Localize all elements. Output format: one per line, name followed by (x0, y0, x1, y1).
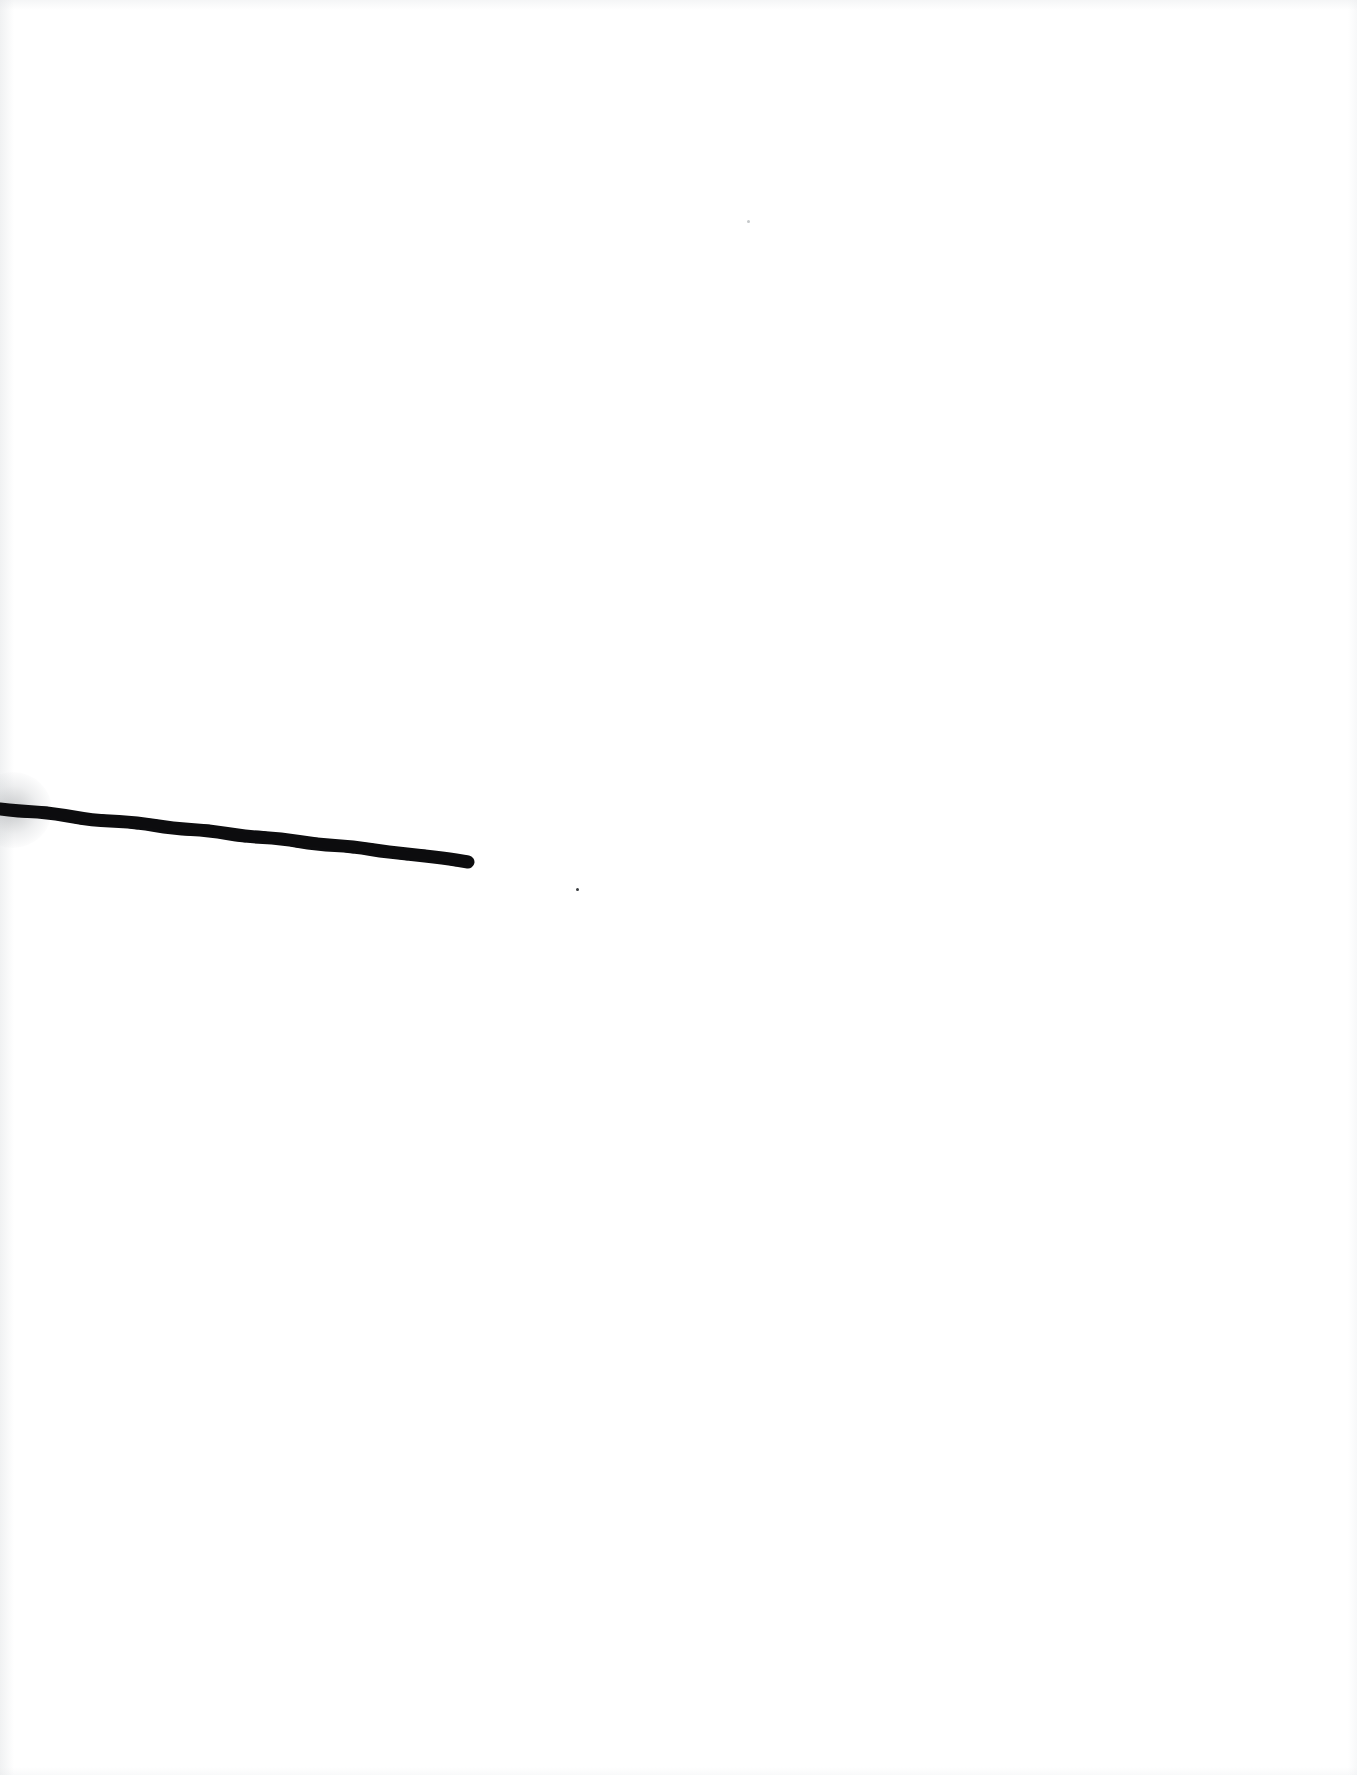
paper-tone-overlay (0, 0, 1357, 1775)
scanned-page (0, 0, 1357, 1775)
ink-stroke (0, 809, 468, 862)
ink-stroke-texture (0, 810, 465, 862)
ink-stroke-layer (0, 0, 1357, 1775)
speck-near-stroke-tip (576, 888, 579, 891)
stroke-edge-halo (0, 772, 52, 848)
speck-upper-right (747, 220, 750, 223)
